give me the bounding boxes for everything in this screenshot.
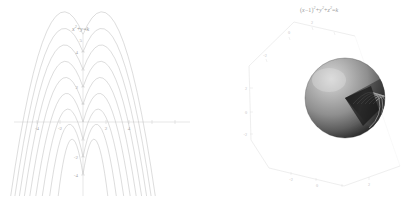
contour-plot-canvas: -4 -2 2 4 4 2 -2 -4 5 [0,0,203,210]
svg-text:-2: -2 [244,132,248,137]
svg-text:-2: -2 [74,155,79,160]
svg-text:0: 0 [245,110,247,115]
svg-text:-2: -2 [289,177,293,182]
svg-text:-2: -2 [58,126,63,131]
svg-text:0: 0 [316,183,318,188]
svg-text:5: 5 [80,38,83,43]
svg-text:2: 2 [105,126,108,131]
svg-text:-4: -4 [35,126,40,131]
sphere-surface [305,58,395,138]
svg-text:2: 2 [311,20,313,25]
svg-text:2: 2 [368,182,370,187]
sphere-plot-canvas: -2 0 2 2 0 -2 -2 0 2 [203,0,406,210]
contour-plot-figure: -4 -2 2 4 4 2 -2 -4 5 [0,0,203,210]
svg-text:-4: -4 [74,173,79,178]
svg-text:0: 0 [288,30,290,35]
svg-text:2: 2 [245,86,247,91]
sphere-plot-figure: -2 0 2 2 0 -2 -2 0 2 [203,0,406,210]
svg-text:-2: -2 [263,53,267,58]
